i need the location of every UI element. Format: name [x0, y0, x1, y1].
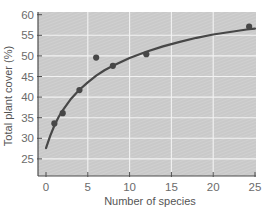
data-point — [51, 120, 57, 126]
data-point — [246, 24, 252, 30]
y-tick-label: 40 — [21, 91, 34, 103]
x-tick-label: 15 — [165, 181, 178, 193]
data-point — [143, 51, 149, 57]
y-tick-label: 50 — [21, 50, 34, 62]
plant-cover-chart: 2530354045505560 0510152025 Total plant … — [0, 0, 265, 212]
data-point — [76, 87, 82, 93]
plot-area — [38, 12, 256, 176]
y-axis-title: Total plant cover (%) — [2, 46, 14, 146]
y-tick-label: 30 — [21, 132, 34, 144]
x-tick-label: 5 — [85, 181, 91, 193]
x-tick-label: 0 — [43, 181, 49, 193]
y-tick-label: 55 — [21, 29, 34, 41]
y-tick-label: 60 — [21, 9, 34, 21]
x-tick-label: 20 — [207, 181, 220, 193]
y-tick-label: 35 — [21, 112, 34, 124]
y-tick-label: 45 — [21, 71, 34, 83]
data-point — [110, 63, 116, 69]
x-tick-label: 10 — [123, 181, 136, 193]
x-axis-title: Number of species — [104, 195, 196, 207]
data-point — [93, 54, 99, 60]
data-point — [60, 110, 66, 116]
y-tick-label: 25 — [21, 153, 34, 165]
x-tick-label: 25 — [249, 181, 262, 193]
